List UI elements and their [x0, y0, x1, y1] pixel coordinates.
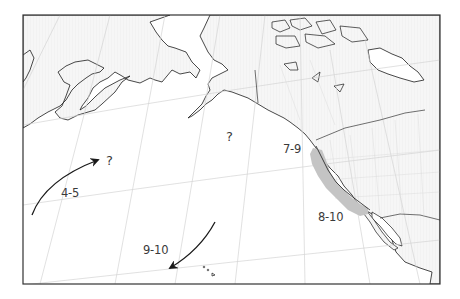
map-canvas [0, 0, 460, 299]
pacific-northwest-months-label: 7-9 [283, 142, 301, 156]
route-south-months-label: 9-10 [143, 243, 168, 257]
route-west-months-label: 4-5 [61, 186, 79, 200]
california-coast-months-label: 8-10 [318, 210, 343, 224]
unknown-gulf-of-alaska-label: ? [226, 129, 233, 144]
unknown-north-pacific-label: ? [106, 153, 113, 168]
